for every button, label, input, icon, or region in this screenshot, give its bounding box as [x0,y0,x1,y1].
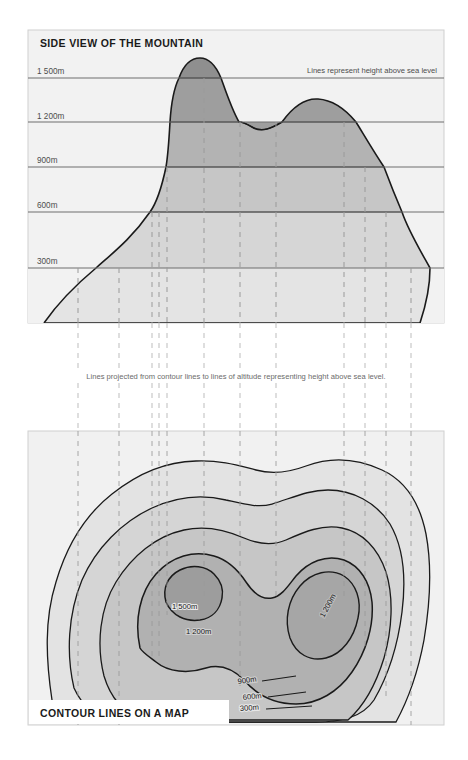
projection-zone: Lines projected from contour lines to li… [60,323,411,431]
diagram-page: Side View of the Mountain Lines represen… [0,0,468,760]
altitude-label-1200: 1 200m [37,112,64,121]
contour-area-1500 [165,567,223,621]
contour-label-1500: 1 500m [172,602,197,611]
mountain-band-900-1200 [166,122,384,167]
altitude-label-1500: 1 500m [37,67,64,76]
altitude-label-600: 600m [37,201,58,210]
contour-label-1200-left: 1 200m [186,627,211,636]
side-view-title: Side View of the Mountain [40,37,203,49]
contour-map-title: Contour Lines on a Map [40,707,189,719]
sea-level-note: Lines represent height above sea level [307,66,437,75]
contour-map-panel: 1 500m 1 200m 1 200m 900m 600m 300m Cont… [28,431,444,725]
contour-label-300: 300m [240,703,260,713]
altitude-label-900: 900m [37,156,58,165]
side-view-panel: Side View of the Mountain Lines represen… [28,30,444,323]
altitude-label-300: 300m [37,257,58,266]
projection-caption: Lines projected from contour lines to li… [86,372,385,381]
mountain-band-0-300 [44,268,430,323]
mountain-band-300-600 [96,212,430,268]
